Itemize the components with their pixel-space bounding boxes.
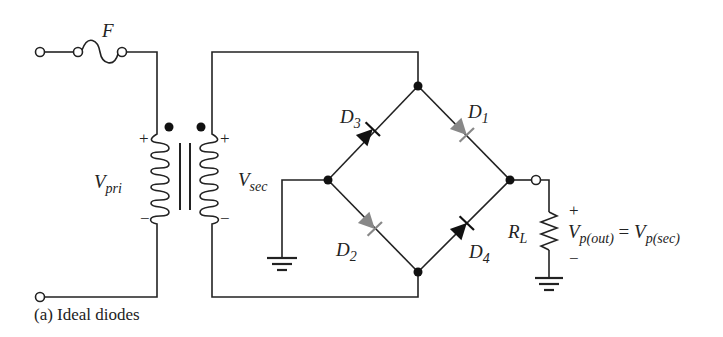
junction-bottom xyxy=(414,268,423,277)
vout-left-main: V xyxy=(568,221,580,242)
ground-icon-output xyxy=(535,278,563,290)
d3-sub: 3 xyxy=(354,116,361,131)
d3-label: D3 xyxy=(340,107,361,131)
fuse-label: F xyxy=(102,21,114,40)
left-ground-wire xyxy=(282,180,328,258)
primary-top-wire xyxy=(127,52,158,130)
v-pri-sub: pri xyxy=(106,181,122,196)
v-pri-label: Vpri xyxy=(94,172,122,196)
input-terminal-bottom xyxy=(36,228,158,302)
d3-main: D xyxy=(340,106,354,127)
input-terminal-top xyxy=(36,48,75,57)
d4-label: D4 xyxy=(469,242,490,266)
primary-dot-icon xyxy=(165,123,174,132)
ground-icon xyxy=(267,258,297,270)
out-minus-sign: − xyxy=(569,250,579,267)
d4-main: D xyxy=(469,241,483,262)
load-resistor-icon xyxy=(541,212,557,250)
pri-plus-sign: + xyxy=(139,130,149,147)
v-sec-main: V xyxy=(238,169,250,190)
vout-right-sub: p(sec) xyxy=(646,231,680,246)
output-terminal xyxy=(532,176,541,185)
v-sec-label: Vsec xyxy=(238,170,268,194)
fuse-icon xyxy=(74,40,127,63)
vout-right-main: V xyxy=(634,221,646,242)
d1-sub: 1 xyxy=(482,111,489,126)
junction-left xyxy=(324,176,333,185)
pri-minus-sign: − xyxy=(140,210,150,227)
junction-right xyxy=(506,176,515,185)
d4-sub: 4 xyxy=(483,251,490,266)
rl-main: R xyxy=(508,221,520,242)
sec-minus-sign: − xyxy=(220,210,230,227)
rl-label: RL xyxy=(508,222,527,246)
out-plus-sign: + xyxy=(569,202,579,219)
bridge-rectifier-diagram xyxy=(0,0,723,337)
v-sec-sub: sec xyxy=(250,179,268,194)
secondary-bottom-wire xyxy=(212,228,418,297)
v-pri-main: V xyxy=(94,171,106,192)
d2-main: D xyxy=(336,239,350,260)
rl-sub: L xyxy=(520,231,528,246)
d1-main: D xyxy=(468,101,482,122)
secondary-coil-icon xyxy=(200,130,218,228)
primary-coil-icon xyxy=(151,130,169,228)
bridge-wire-d3 xyxy=(328,86,418,180)
output-voltage-equation: Vp(out) = Vp(sec) xyxy=(568,222,680,246)
load-top-wire xyxy=(541,180,550,212)
figure-caption: (a) Ideal diodes xyxy=(34,305,140,325)
vout-left-sub: p(out) xyxy=(580,231,614,246)
secondary-dot-icon xyxy=(197,123,206,132)
junction-top xyxy=(414,82,423,91)
sec-plus-sign: + xyxy=(220,130,230,147)
d2-label: D2 xyxy=(336,240,357,264)
equals-sign: = xyxy=(619,221,630,242)
d2-sub: 2 xyxy=(350,249,357,264)
d1-label: D1 xyxy=(468,102,489,126)
